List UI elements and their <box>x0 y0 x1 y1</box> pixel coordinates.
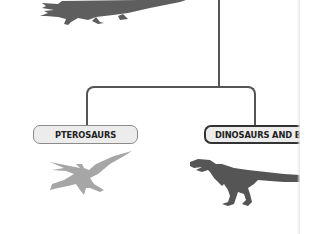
node-label: DINOSAURS AND BIRD <box>215 130 300 140</box>
trex-silhouette-icon <box>188 158 300 210</box>
node-pterosaurs: PTEROSAURS <box>33 125 138 144</box>
branch-connector <box>86 86 256 126</box>
node-label: PTEROSAURS <box>55 130 116 140</box>
stem-line <box>218 0 220 87</box>
crocodile-silhouette-icon <box>38 0 188 27</box>
node-dinosaurs-and-birds: DINOSAURS AND BIRD <box>204 125 300 144</box>
pterosaur-silhouette-icon <box>44 150 134 200</box>
page-edge-shadow <box>297 0 300 234</box>
